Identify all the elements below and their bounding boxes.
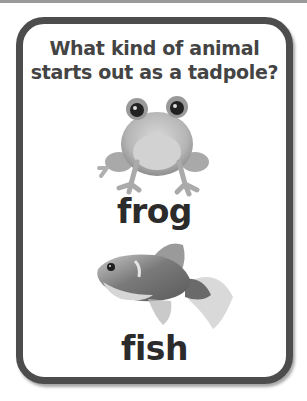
top-strip (0, 0, 307, 3)
answer-fish[interactable]: fish (23, 331, 286, 367)
fish-image[interactable] (93, 237, 243, 332)
answer-frog[interactable]: frog (23, 194, 286, 230)
flash-card: What kind of animal starts out as a tadp… (16, 17, 293, 384)
question-line-2: starts out as a tadpole? (23, 60, 286, 84)
question-line-1: What kind of animal (23, 36, 286, 60)
question-text: What kind of animal starts out as a tadp… (23, 36, 286, 84)
frog-image[interactable] (97, 92, 217, 202)
